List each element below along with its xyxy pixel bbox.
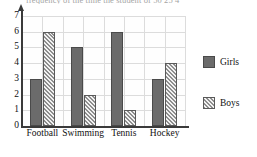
bar-group xyxy=(71,16,96,126)
y-tick-label-1: 1 xyxy=(5,105,19,115)
y-tick-label-2: 2 xyxy=(5,90,19,100)
y-tick-label-7: 7 xyxy=(5,11,19,21)
plot-area xyxy=(22,16,185,126)
gridline-v-2 xyxy=(63,16,64,126)
x-tick-label-hockey: Hockey xyxy=(135,128,195,139)
chart-legend: GirlsBoys xyxy=(203,55,257,137)
y-tick-label-5: 5 xyxy=(5,42,19,52)
gridline-v-4 xyxy=(104,16,105,126)
bar-group xyxy=(30,16,55,126)
bar xyxy=(84,95,96,126)
y-axis-line xyxy=(21,10,23,127)
grouped-bar-chart: frequency of the time the student of 50 … xyxy=(0,0,257,157)
legend-label-girls: Girls xyxy=(220,57,239,67)
bar-group xyxy=(111,16,136,126)
x-axis-category-labels: FootballSwimmingTennisHockey xyxy=(0,128,200,146)
y-tick-label-4: 4 xyxy=(5,58,19,68)
bar-group xyxy=(152,16,177,126)
legend-swatch-girls xyxy=(203,56,215,68)
bar xyxy=(43,32,55,126)
bar xyxy=(111,32,123,126)
bar xyxy=(152,79,164,126)
bar xyxy=(124,110,136,126)
legend-item-girls: Girls xyxy=(203,55,257,68)
legend-swatch-boys xyxy=(203,97,215,109)
gridline-v-6 xyxy=(144,16,145,126)
legend-label-boys: Boys xyxy=(220,98,240,108)
y-tick-label-6: 6 xyxy=(5,27,19,37)
gridline-v-8 xyxy=(185,16,186,126)
clipped-text-above-figure: frequency of the time the student of 50 … xyxy=(26,0,241,4)
bar xyxy=(165,63,177,126)
legend-item-boys: Boys xyxy=(203,96,257,109)
y-tick-label-3: 3 xyxy=(5,74,19,84)
bar xyxy=(71,47,83,126)
bar xyxy=(30,79,42,126)
